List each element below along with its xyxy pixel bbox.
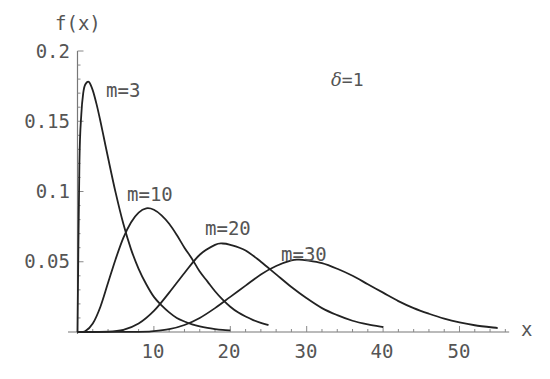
y-axis-label: f(x) — [55, 14, 101, 33]
delta-symbol: δ — [331, 69, 342, 90]
y-tick-label-0.1: 0.1 — [10, 182, 70, 201]
curve-label-m30: m=30 — [281, 245, 327, 264]
x-tick-label-50: 50 — [439, 342, 479, 361]
x-tick-label-10: 10 — [133, 342, 173, 361]
curve-m30 — [78, 260, 498, 332]
x-tick-label-40: 40 — [362, 342, 402, 361]
x-axis-label: x — [521, 320, 532, 339]
y-tick-label-0.2: 0.2 — [10, 42, 70, 61]
curve-label-m10: m=10 — [127, 185, 173, 204]
y-tick-label-0.15: 0.15 — [10, 112, 70, 131]
chart-area: f(x) x 0.2 0.15 0.1 0.05 10 20 30 40 50 … — [0, 0, 550, 379]
x-tick-label-20: 20 — [209, 342, 249, 361]
curve-m20 — [78, 243, 384, 332]
x-tick-label-30: 30 — [286, 342, 326, 361]
curve-label-m3: m=3 — [106, 81, 140, 100]
y-tick-label-0.05: 0.05 — [10, 252, 70, 271]
curves — [78, 82, 498, 332]
curve-m3 — [78, 82, 231, 332]
curve-label-m20: m=20 — [205, 219, 251, 238]
delta-value: =1 — [342, 69, 364, 90]
plot-svg — [0, 0, 550, 379]
delta-annotation: δ=1 — [331, 71, 364, 89]
